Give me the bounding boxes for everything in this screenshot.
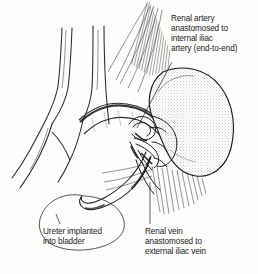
leader-ureter — [56, 214, 60, 224]
transplanted-kidney — [149, 68, 233, 176]
label-renal-artery-line4: artery (end-to-end) — [171, 44, 237, 54]
tissue-fibres-upper-left — [108, 4, 162, 92]
label-renal-artery-line3: internal iliac — [171, 34, 237, 44]
label-renal-artery-line1: Renal artery — [171, 14, 237, 24]
label-ureter: Ureter implanted into bladder — [43, 227, 102, 247]
label-renal-vein-line1: Renal vein — [145, 227, 206, 237]
label-renal-artery-line2: anastomosed to — [171, 24, 237, 34]
label-ureter-line2: into bladder — [43, 237, 102, 247]
label-renal-vein-line2: anastomosed to — [145, 237, 206, 247]
label-renal-vein-line3: external iliac vein — [145, 247, 206, 257]
label-renal-vein: Renal vein anastomosed to external iliac… — [145, 227, 206, 257]
hilum-vessels — [129, 117, 167, 194]
label-ureter-line1: Ureter implanted — [43, 227, 102, 237]
aorta-iliac-bifurcation — [12, 26, 109, 188]
label-renal-artery: Renal artery anastomosed to internal ili… — [171, 14, 237, 54]
aorta-shading — [30, 30, 98, 170]
